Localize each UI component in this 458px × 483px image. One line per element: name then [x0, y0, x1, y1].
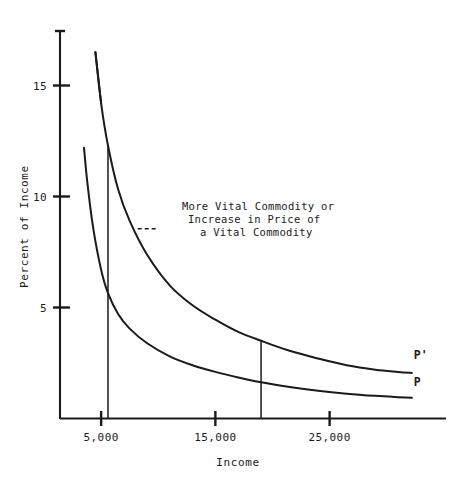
income-percent-line-chart: 15 10 5 5,000 15,000 25,000 Percent of I… — [0, 0, 458, 483]
chart-figure: 15 10 5 5,000 15,000 25,000 Percent of I… — [0, 0, 458, 483]
x-tick-label-5000: 5,000 — [84, 431, 119, 444]
x-axis-title: Income — [216, 456, 259, 469]
y-tick-label-15: 15 — [33, 80, 47, 93]
x-tick-group: 5,000 15,000 25,000 — [84, 411, 351, 444]
series-label-p-prime: P' — [414, 348, 428, 362]
y-tick-label-5: 5 — [40, 302, 47, 315]
annotation-line-1: More Vital Commodity or — [182, 200, 334, 212]
x-tick-label-15000: 15,000 — [194, 431, 236, 444]
annotation-line-2: Increase in Price of — [188, 213, 320, 225]
y-tick-label-10: 10 — [33, 191, 47, 204]
curve-p — [84, 148, 412, 398]
x-tick-label-25000: 25,000 — [309, 431, 351, 444]
series-label-p: P — [414, 375, 421, 389]
y-axis-title: Percent of Income — [18, 165, 31, 288]
annotation-line-3: a Vital Commodity — [200, 226, 313, 238]
shift-annotation: More Vital Commodity or Increase in Pric… — [138, 200, 335, 238]
y-tick-group: 15 10 5 — [33, 80, 70, 315]
